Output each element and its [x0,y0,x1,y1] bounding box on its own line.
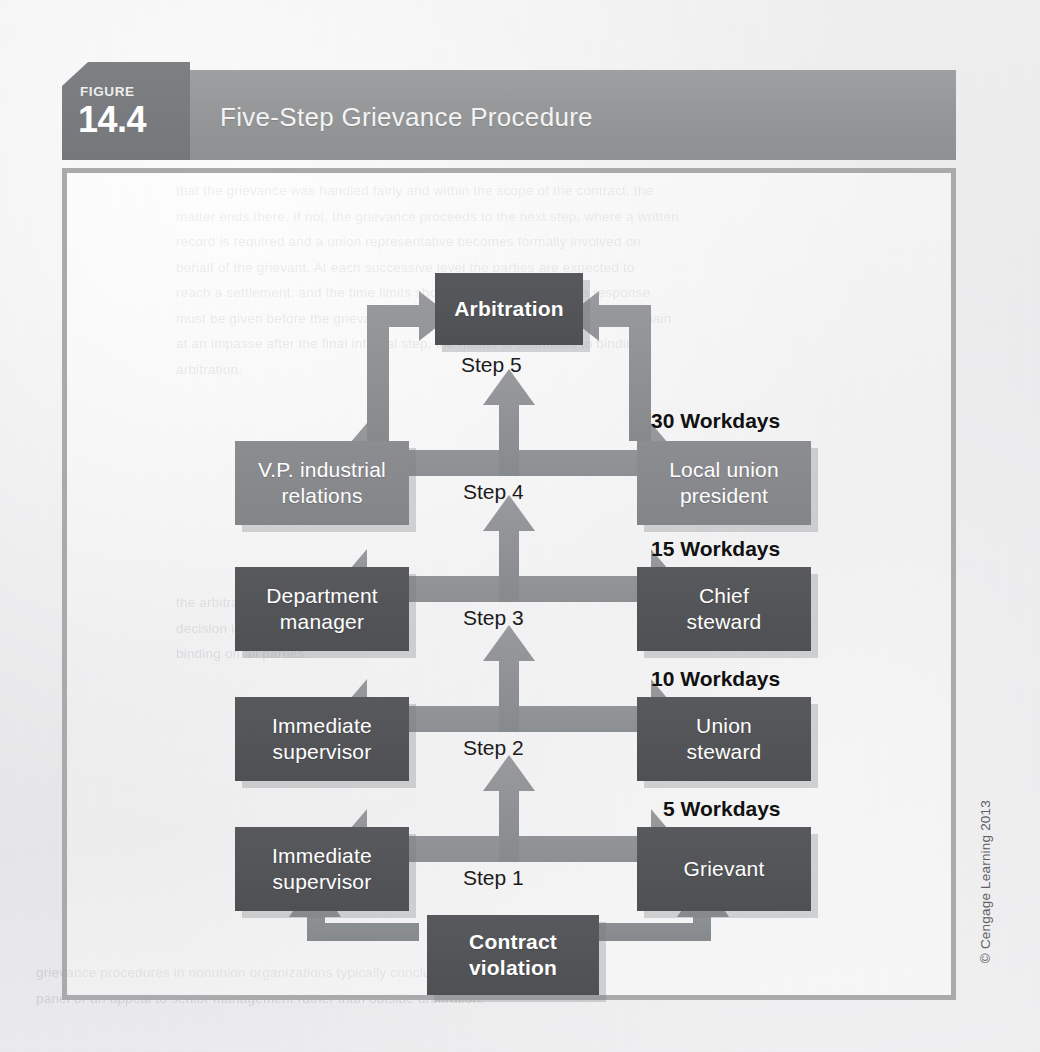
node-union-steward-label: Union steward [687,713,762,765]
node-local-union-president-label: Local union president [669,457,779,509]
copyright-credit: © Cengage Learning 2013 [978,800,993,963]
node-department-manager-label: Department manager [266,583,378,635]
step-label-4: Step 4 [463,480,524,504]
step-label-5: Step 5 [461,353,522,377]
workdays-label-step2: 10 Workdays [651,667,780,691]
node-contract-violation-label: Contract violation [469,929,557,981]
node-vp-industrial-relations[interactable]: V.P. industrial relations [235,441,409,525]
workdays-label-step3: 15 Workdays [651,537,780,561]
node-vp-industrial-relations-label: V.P. industrial relations [258,457,386,509]
node-department-manager[interactable]: Department manager [235,567,409,651]
figure-tab-label: FIGURE [80,84,180,99]
node-immediate-supervisor-step2[interactable]: Immediate supervisor [235,697,409,781]
node-union-steward[interactable]: Union steward [637,697,811,781]
figure-container: FIGURE 14.4 Five-Step Grievance Procedur… [62,62,956,1000]
node-immediate-supervisor-step1-label: Immediate supervisor [272,843,372,895]
workdays-label-step4: 30 Workdays [651,409,780,433]
node-grievant[interactable]: Grievant [637,827,811,911]
node-grievant-label: Grievant [684,856,765,882]
node-contract-violation[interactable]: Contract violation [427,915,599,995]
node-chief-steward[interactable]: Chief steward [637,567,811,651]
node-arbitration[interactable]: Arbitration [435,273,583,345]
node-arbitration-label: Arbitration [454,296,564,322]
node-immediate-supervisor-step2-label: Immediate supervisor [272,713,372,765]
step-label-3: Step 3 [463,606,524,630]
workdays-label-step1: 5 Workdays [663,797,781,821]
step-label-2: Step 2 [463,736,524,760]
diagram-canvas: Arbitration Step 5 30 Workdays V.P. indu… [67,173,951,995]
figure-body: Arbitration Step 5 30 Workdays V.P. indu… [62,168,956,1000]
step-label-1: Step 1 [463,866,524,890]
figure-title: Five-Step Grievance Procedure [220,102,593,133]
figure-header: FIGURE 14.4 Five-Step Grievance Procedur… [62,62,956,160]
node-chief-steward-label: Chief steward [687,583,762,635]
node-immediate-supervisor-step1[interactable]: Immediate supervisor [235,827,409,911]
figure-tab-number: 14.4 [78,100,182,140]
node-local-union-president[interactable]: Local union president [637,441,811,525]
